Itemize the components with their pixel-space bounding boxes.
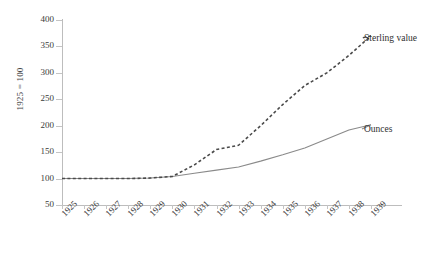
series-line-sterling (62, 36, 371, 179)
chart-container: 1925 = 100 50100150200250300350400 19251… (0, 0, 429, 253)
series-label-sterling: Sterling value (364, 33, 417, 43)
series-line-ounces (62, 125, 371, 179)
series-label-ounces: Ounces (364, 124, 393, 134)
